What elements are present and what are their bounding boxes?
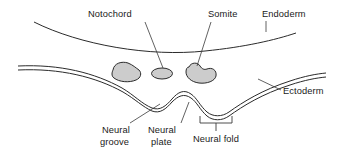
label-neural-fold: Neural fold (193, 134, 239, 144)
label-somite: Somite (208, 9, 238, 19)
label-endoderm: Endoderm (262, 9, 306, 19)
endoderm-curve (34, 22, 296, 53)
notochord-blob (152, 68, 173, 79)
somite-leader-line (197, 22, 211, 66)
notochord-leader-line (145, 22, 163, 68)
somite-right-blob (186, 63, 216, 83)
embryo-cross-section-diagram: Notochord Somite Endoderm Ectoderm Neura… (0, 0, 338, 151)
label-neural-plate-line1: Neural (148, 125, 176, 135)
neural-plate-leader-line (181, 102, 189, 123)
label-neural-plate-line2: plate (151, 137, 172, 147)
neural-fold-bracket-icon (200, 116, 232, 131)
label-ectoderm: Ectoderm (283, 86, 324, 96)
label-notochord: Notochord (88, 9, 132, 19)
diagram-canvas: Notochord Somite Endoderm Ectoderm Neura… (0, 0, 338, 151)
label-neural-groove-line2: groove (100, 137, 129, 147)
label-neural-groove-line1: Neural (102, 125, 130, 135)
somite-left-blob (112, 62, 141, 81)
ectoderm-inner-curve (18, 70, 326, 120)
